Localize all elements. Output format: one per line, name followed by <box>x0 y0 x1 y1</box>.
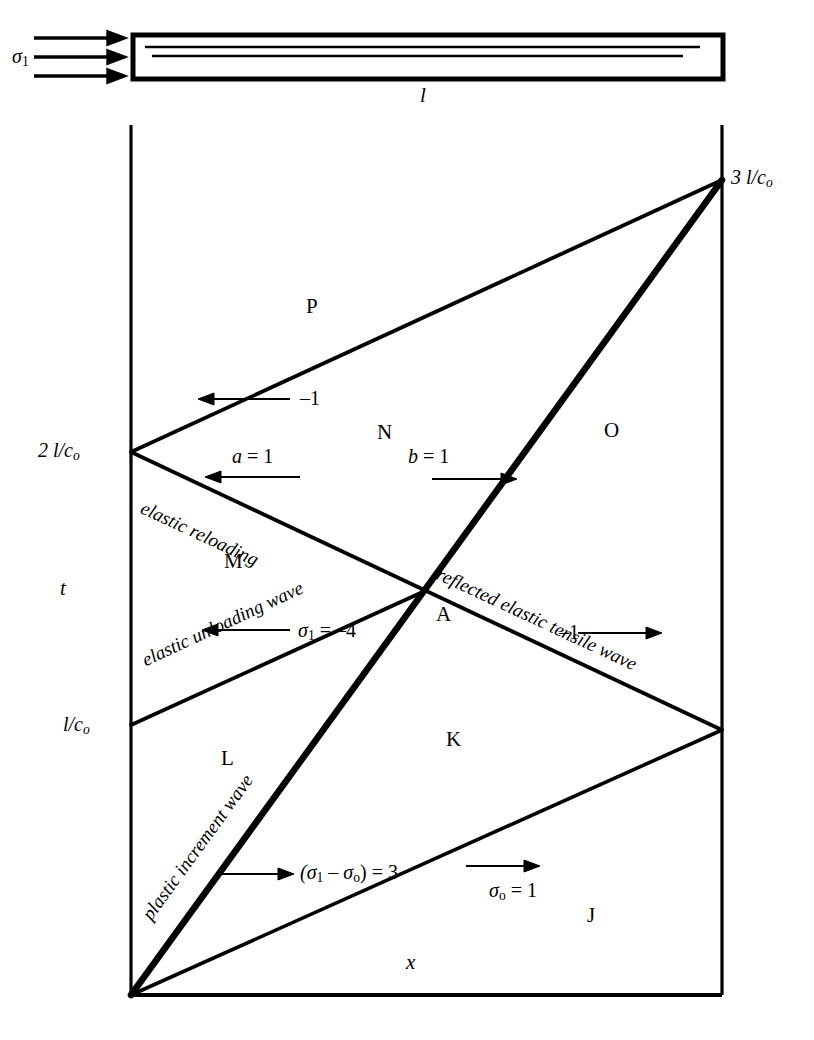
annotation-sigma1-sub: 1 <box>308 628 315 643</box>
specimen-length-label: l <box>420 85 426 106</box>
figure-root: σ1 l l/co 2 l/co 3 l/co t x J K L M N O … <box>0 0 814 1040</box>
arrow-b-eq-1 <box>432 473 517 485</box>
annotation-sigma1-symbol: σ <box>298 619 308 641</box>
arrow-sigma1-minus-sigma0 <box>222 868 294 880</box>
time-tick-l-over-c0: l/co <box>63 714 90 737</box>
arrow-sigma0-eq-1 <box>466 860 540 872</box>
annotation-sigma1-tail: = –4 <box>315 619 356 641</box>
annotation-sigma0-sub: o <box>499 888 506 903</box>
specimen-stress-symbol: σ <box>12 45 22 67</box>
t-axis-label: t <box>60 578 66 599</box>
annotation-b-tail: = 1 <box>418 445 449 467</box>
arrow-minus1-upper <box>198 393 290 405</box>
annotation-delta-mid: – σ <box>323 861 353 883</box>
time-tick-1-text: l/c <box>63 713 83 735</box>
time-tick-2-sub: o <box>73 448 80 463</box>
time-tick-3-sub: o <box>766 175 773 190</box>
region-label-K: K <box>446 729 461 750</box>
elastic-reloading-line <box>131 180 722 452</box>
specimen-stress-label: σ1 <box>12 46 29 69</box>
region-label-J: J <box>587 905 595 926</box>
annotation-b-eq-1: b = 1 <box>408 446 449 466</box>
region-label-N: N <box>377 422 392 443</box>
specimen-stress-subscript: 1 <box>22 54 29 69</box>
annotation-sigma1-minus-sigma0-eq-3: (σ1 – σo) = 3 <box>300 862 398 885</box>
plastic-increment-wave-line <box>131 180 722 995</box>
time-tick-3l-over-c0: 3 l/co <box>731 167 773 190</box>
time-tick-2-text: 2 l/c <box>38 439 73 461</box>
time-tick-1-sub: o <box>83 722 90 737</box>
annotation-sigma0-eq-1: σo = 1 <box>489 880 537 903</box>
stress-arrows-group <box>34 32 124 82</box>
region-label-P: P <box>306 296 318 317</box>
annotation-delta-tail: ) = 3 <box>360 861 398 883</box>
annotation-b-symbol: b <box>408 445 418 467</box>
annotation-a-symbol: a <box>232 445 242 467</box>
arrow-a-eq-1 <box>205 471 300 483</box>
elastic-leading-wave-line <box>131 730 722 995</box>
annotation-a-tail: = 1 <box>242 445 273 467</box>
annotation-delta-open: (σ <box>300 861 317 883</box>
region-label-A: A <box>436 604 451 625</box>
annotation-a-eq-1: a = 1 <box>232 446 273 466</box>
elastic-unloading-wave-line <box>131 590 427 725</box>
x-axis-label: x <box>406 952 415 973</box>
time-tick-2l-over-c0: 2 l/co <box>38 440 80 463</box>
annotation-delta-sub2: o <box>353 870 360 885</box>
annotation-sigma0-symbol: σ <box>489 879 499 901</box>
region-label-O: O <box>604 420 619 441</box>
region-label-L: L <box>221 748 234 769</box>
annotation-minus-1-upper: –1 <box>300 388 320 408</box>
annotation-sigma0-tail: = 1 <box>506 879 537 901</box>
time-tick-3-text: 3 l/c <box>731 166 766 188</box>
specimen-diagram-layer <box>0 0 814 1040</box>
annotation-minus-1-right: –1 <box>559 622 579 642</box>
annotation-sigma1-eq-minus-4: σ1 = –4 <box>298 620 356 643</box>
